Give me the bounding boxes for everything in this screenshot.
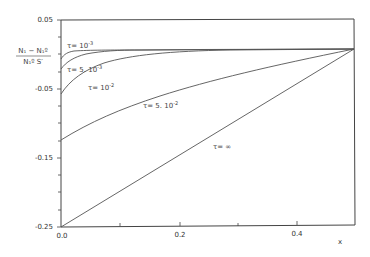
x-tick-0.0: 0.0: [56, 232, 67, 240]
top-border: [61, 19, 354, 20]
y-label-numerator: N₁ − N₁º: [18, 47, 48, 55]
y-label-denominator: N₁º S′: [23, 58, 43, 66]
curve-tau-5e-3: [61, 49, 354, 69]
y-tick-neg0.15: -0.15: [35, 154, 53, 162]
y-tick-neg0.05: -0.05: [35, 85, 53, 93]
curve-labels: τ= 10-3 τ= 5. 10-3 τ= 10-2 τ= 5. 10-2 τ=…: [67, 40, 231, 151]
x-tick-0.2: 0.2: [174, 231, 185, 239]
label-tau-1e-2: τ= 10-2: [88, 82, 114, 92]
x-tick-labels: 0.0 0.2 0.4 x: [56, 230, 342, 246]
curve-tau-inf: [61, 49, 354, 227]
right-border: [354, 19, 355, 225]
label-tau-1e-3: τ= 10-3: [67, 40, 93, 50]
x-tick-0.4: 0.4: [291, 230, 303, 238]
x-axis-label: x: [338, 238, 342, 246]
curves: [61, 49, 354, 227]
y-tick-neg0.25: -0.25: [35, 223, 53, 231]
label-tau-5e-2: τ= 5. 10-2: [143, 100, 178, 110]
label-tau-5e-3: τ= 5. 10-3: [67, 64, 102, 74]
x-axis: [61, 225, 355, 227]
y-ticks: [57, 20, 61, 227]
y-tick-0.05: 0.05: [37, 16, 53, 24]
label-tau-inf: τ= ∞: [213, 143, 231, 151]
chart: 0.05 -0.05 -0.15 -0.25 0.0 0.2 0.4 x N₁ …: [0, 0, 370, 257]
y-axis-label: N₁ − N₁º N₁º S′: [16, 47, 51, 66]
